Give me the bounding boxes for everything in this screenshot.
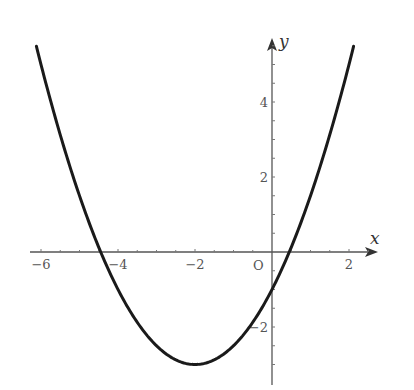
- parabola-graph: −6−4−2242−2 x y O: [0, 0, 414, 390]
- y-axis-label: y: [278, 31, 289, 51]
- x-tick-label: 2: [345, 257, 353, 272]
- y-tick-label: 4: [260, 95, 268, 110]
- x-tick-label: −2: [185, 257, 204, 272]
- origin-label: O: [253, 258, 264, 273]
- axis-ticks: [41, 46, 368, 365]
- parabola-curve: [36, 46, 353, 364]
- y-axis: [267, 38, 277, 385]
- x-tick-label: −6: [31, 257, 50, 272]
- y-tick-label: 2: [260, 170, 268, 185]
- x-axis: [30, 247, 378, 257]
- x-tick-label: −4: [108, 257, 127, 272]
- x-axis-label: x: [370, 228, 380, 248]
